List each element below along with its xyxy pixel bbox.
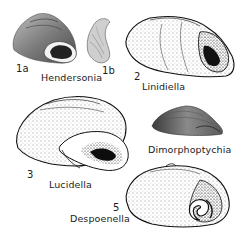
shell-1a [13, 13, 76, 63]
label-5: 5 [113, 203, 119, 213]
label-2: 2 [134, 72, 140, 82]
genus-hendersonia: Hendersonia [41, 73, 102, 83]
genus-dimorphoptychia: Dimorphoptychia [148, 145, 231, 155]
label-1b: 1b [102, 66, 115, 76]
shell-3 [17, 97, 129, 171]
shell-5 [126, 164, 229, 227]
genus-linidiella: Linidiella [142, 82, 185, 92]
shell-dimorphoptychia [152, 106, 223, 136]
shell-2 [126, 16, 234, 76]
label-3: 3 [27, 170, 33, 180]
genus-despoenella: Despoenella [70, 214, 130, 224]
shell-illustration-plate: 1a 1b Hendersonia 2 Linidiella Dimorphop… [0, 0, 247, 244]
label-1a: 1a [16, 64, 29, 74]
shells-artwork [0, 0, 247, 244]
genus-lucidella: Lucidella [49, 180, 92, 190]
shell-1b [87, 19, 110, 63]
